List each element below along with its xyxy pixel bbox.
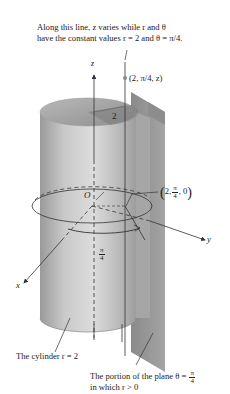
y-axis-label: y — [207, 234, 211, 244]
top-caption-line2: have the constant values r = 2 and θ = π… — [37, 33, 182, 43]
cylinder-caption: The cylinder r = 2 — [16, 351, 78, 361]
point-label-top: (2, π/4, z) — [129, 73, 162, 83]
origin-label: O — [84, 190, 91, 200]
x-axis-label: x — [16, 280, 20, 290]
point-label-base: (2,π4, 0) — [160, 185, 192, 200]
plane-caption-line2: in which r > 0 — [90, 382, 138, 392]
radius-label: 2 — [112, 111, 117, 121]
top-caption-line1: Along this line, z varies while r and θ — [37, 22, 166, 32]
cylinder — [40, 98, 150, 332]
z-axis-label: z — [91, 59, 94, 69]
point-top-marker — [123, 76, 127, 80]
angle-label: π4 — [98, 247, 106, 262]
cylindrical-coordinates-figure — [0, 0, 230, 394]
